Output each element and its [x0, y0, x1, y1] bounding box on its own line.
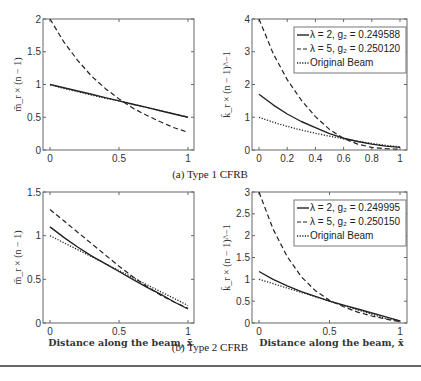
y-tick-label: 1.5	[27, 187, 41, 198]
plot-area	[43, 192, 194, 323]
series-dashed-line	[50, 19, 188, 132]
x-tick-label: 0.6	[337, 153, 351, 164]
series-solid-line	[50, 227, 188, 309]
x-tick-label: 1	[397, 153, 403, 164]
x-tick-label: 0	[256, 153, 262, 164]
y-axis-label: m̄_r × (n − 1)	[12, 57, 24, 111]
x-tick-label: 0	[256, 326, 262, 337]
chart-type1-stiffness: 0123400.20.40.60.81k̄_r × (n − 1)^−1λ = …	[221, 14, 407, 165]
chart-type1-moment: 00.511.5200.51m̄_r × (n − 1)	[12, 14, 194, 165]
y-axis-label: k̄_r × (n − 1)^−1	[221, 224, 233, 291]
plot-area	[43, 19, 194, 150]
legend-entry: Original Beam	[310, 230, 373, 241]
y-tick-label: 0	[35, 318, 41, 329]
y-tick-label: 0	[35, 145, 41, 156]
x-tick-label: 0.2	[280, 153, 294, 164]
y-tick-label: 3	[244, 187, 250, 198]
y-tick-label: 1	[35, 230, 41, 241]
y-tick-label: 0.5	[27, 112, 41, 123]
y-tick-label: 2.5	[236, 208, 250, 219]
y-tick-label: 1.5	[236, 252, 250, 263]
series-solid-line	[259, 272, 400, 321]
y-axis-label: m̄_r × (n − 1)	[12, 230, 24, 284]
y-tick-label: 2	[244, 79, 250, 90]
x-tick-label: 0	[47, 153, 53, 164]
series-solid-line	[259, 94, 400, 147]
y-tick-label: 0	[244, 145, 250, 156]
y-tick-label: 1	[35, 79, 41, 90]
series-dashed-line	[50, 210, 188, 309]
legend-entry: λ = 5, g₂ = 0.250120	[310, 43, 401, 54]
series-dotted-line	[50, 236, 188, 306]
y-tick-label: 2	[244, 230, 250, 241]
caption-a: (a) Type 1 CFRB	[172, 168, 248, 181]
x-tick-label: 0.5	[323, 326, 337, 337]
x-tick-label: 0.8	[365, 153, 379, 164]
y-tick-label: 1	[244, 112, 250, 123]
x-tick-label: 0.4	[308, 153, 322, 164]
chart-type2-moment: 00.511.500.51m̄_r × (n − 1)Distance alon…	[12, 187, 194, 350]
legend-entry: Original Beam	[310, 57, 373, 68]
legend: λ = 2, g₂ = 0.249995λ = 5, g₂ = 0.250150…	[294, 200, 406, 246]
x-tick-label: 0.5	[112, 153, 126, 164]
y-tick-label: 0.5	[236, 296, 250, 307]
y-tick-label: 1	[244, 274, 250, 285]
x-tick-label: 1	[185, 326, 191, 337]
x-axis-label: Distance along the beam, x̄	[259, 337, 404, 349]
x-tick-label: 1	[185, 153, 191, 164]
x-tick-label: 1	[397, 326, 403, 337]
y-tick-label: 3	[244, 46, 250, 57]
legend-entry: λ = 2, g₂ = 0.249995	[310, 202, 401, 213]
x-tick-label: 0	[47, 326, 53, 337]
x-tick-label: 0.5	[112, 326, 126, 337]
caption-b: (b) Type 2 CFRB	[172, 341, 248, 354]
y-tick-label: 4	[244, 14, 250, 25]
legend: λ = 2, g₂ = 0.249588λ = 5, g₂ = 0.250120…	[294, 27, 406, 73]
chart-type2-stiffness: 00.511.522.5300.51k̄_r × (n − 1)^−1Dista…	[221, 187, 407, 350]
legend-entry: λ = 2, g₂ = 0.249588	[310, 29, 401, 40]
legend-entry: λ = 5, g₂ = 0.250150	[310, 216, 401, 227]
series-dotted-line	[259, 117, 400, 146]
figure-canvas: 00.511.5200.51m̄_r × (n − 1)0123400.20.4…	[0, 0, 421, 381]
y-tick-label: 2	[35, 14, 41, 25]
y-tick-label: 1.5	[27, 46, 41, 57]
y-axis-label: k̄_r × (n − 1)^−1	[221, 51, 233, 118]
y-tick-label: 0.5	[27, 274, 41, 285]
y-tick-label: 0	[244, 318, 250, 329]
